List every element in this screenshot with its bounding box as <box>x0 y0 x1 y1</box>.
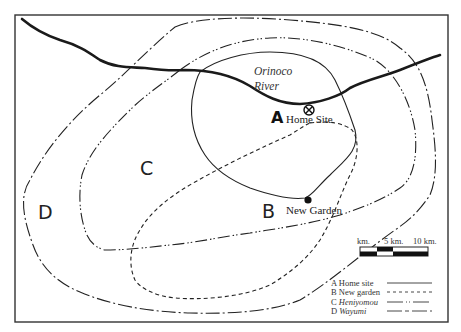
scale-bar <box>360 247 428 256</box>
scale-label-km: km. <box>357 237 370 246</box>
legend-key: B <box>331 287 337 297</box>
legend-item-d: D Wayumi <box>331 307 366 316</box>
site-b-letter: B <box>262 202 275 221</box>
home-site-label: Home Site <box>286 114 333 125</box>
legend-label: Wayumi <box>339 306 366 316</box>
filled-dot-icon <box>304 196 311 203</box>
wayumi-boundary <box>24 18 436 313</box>
river-label-line2: River <box>254 81 279 93</box>
legend-key: D <box>331 306 337 316</box>
heniyomou-boundary <box>80 38 416 250</box>
scale-label-5km: 5 km. <box>384 237 403 246</box>
river-label-line1: Orinoco <box>254 66 292 78</box>
legend-label: New garden <box>339 287 380 297</box>
map-canvas <box>0 0 461 332</box>
region-d-letter: D <box>38 203 53 222</box>
map-frame <box>15 15 448 322</box>
new-garden-label: New Garden <box>286 205 342 216</box>
site-a-letter: A <box>271 110 283 126</box>
scale-label-10km: 10 km. <box>413 237 437 246</box>
region-c-letter: C <box>140 159 153 178</box>
legend-samples <box>387 283 432 311</box>
legend-item-b: B New garden <box>331 288 380 297</box>
